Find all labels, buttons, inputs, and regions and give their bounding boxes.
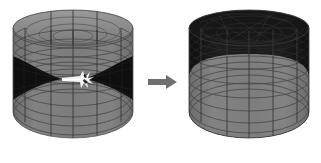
cylinder-after-svg (180, 0, 321, 163)
cylinder-after (180, 0, 321, 163)
cylinder-before (0, 0, 150, 163)
cylinder-before-svg (0, 0, 150, 163)
figure-canvas (0, 0, 321, 163)
transition-arrow-icon (146, 72, 182, 92)
transition-arrow (146, 72, 182, 92)
